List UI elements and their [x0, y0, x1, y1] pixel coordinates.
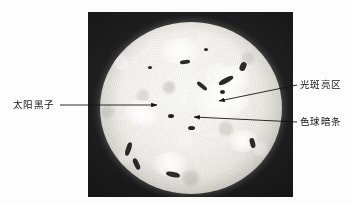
leader-line-filament	[194, 117, 297, 122]
annotation-label-chromosphere-dark-filament: 色球暗条	[300, 117, 342, 127]
annotation-label-sunspot: 太阳黑子	[13, 100, 55, 110]
figure-root: 太阳黑子 光斑亮区 色球暗条	[0, 0, 351, 205]
leader-line-facula	[219, 85, 297, 101]
annotation-label-facula-bright-region: 光斑亮区	[300, 80, 342, 90]
